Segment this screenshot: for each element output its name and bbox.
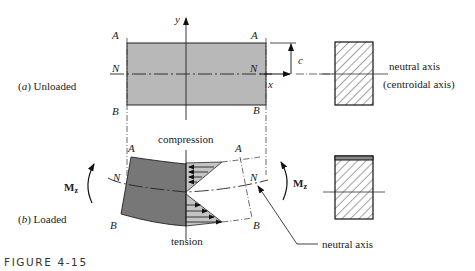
- moment-right-label: Mz: [293, 177, 307, 191]
- moment-left-label: Mz: [64, 181, 78, 195]
- label-A-left-b: A: [127, 142, 135, 154]
- figure-caption: FIGURE 4-15: [4, 256, 88, 268]
- label-A-right: A: [250, 29, 258, 41]
- label-N-left-b: N: [112, 171, 121, 183]
- panel-unloaded: A N B A N B y x c (a) Unloaded neutral a…: [18, 13, 455, 190]
- compression-label: compression: [158, 133, 214, 145]
- callout-neutral-axis: neutral axis: [322, 238, 373, 250]
- label-B-right-b: B: [253, 219, 260, 231]
- moment-left-arrow: [88, 164, 94, 203]
- cross-section-unloaded: [335, 42, 373, 105]
- label-y-axis: y: [174, 13, 180, 25]
- tension-label: tension: [171, 235, 203, 247]
- label-N-right-b: N: [249, 171, 258, 183]
- panel-loaded: neutral axis Mz Mz A N B A N B compressi…: [18, 133, 385, 250]
- label-A-right-b: A: [234, 142, 242, 154]
- label-N-left: N: [111, 62, 120, 74]
- label-N-right: N: [249, 62, 258, 74]
- tension-stress-block: [186, 194, 222, 226]
- cross-section-loaded: [335, 156, 373, 219]
- label-x-axis: x: [267, 78, 273, 90]
- panel-b-label: (b) Loaded: [18, 213, 67, 226]
- bending-diagram: A N B A N B y x c (a) Unloaded neutral a…: [0, 0, 475, 271]
- label-B-left: B: [112, 105, 119, 117]
- deformed-outline-bottom: [222, 218, 252, 222]
- callout-arrow: [258, 186, 297, 244]
- deformed-right-edge: [240, 157, 252, 218]
- label-B-left-b: B: [110, 219, 117, 231]
- centroidal-axis-label: (centroidal axis): [383, 78, 455, 91]
- neutral-axis-label: neutral axis: [389, 60, 440, 72]
- label-A-left: A: [111, 29, 119, 41]
- label-c: c: [298, 54, 303, 66]
- cross-section-compressed-band: [335, 156, 373, 160]
- moment-right-arrow: [281, 162, 287, 200]
- label-B-right: B: [253, 104, 260, 116]
- panel-a-label: (a) Unloaded: [18, 80, 77, 93]
